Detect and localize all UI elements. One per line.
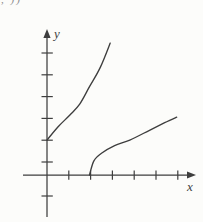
x-axis-label: x — [187, 180, 193, 193]
x-axis-arrow-icon — [187, 171, 196, 178]
graph-figure: , )) y x — [0, 0, 203, 222]
exponential-curve — [47, 43, 110, 140]
y-axis-label: y — [54, 27, 60, 40]
inverse-log-curve — [90, 117, 177, 175]
graph-canvas — [0, 0, 203, 222]
y-axis-arrow-icon — [43, 29, 50, 38]
